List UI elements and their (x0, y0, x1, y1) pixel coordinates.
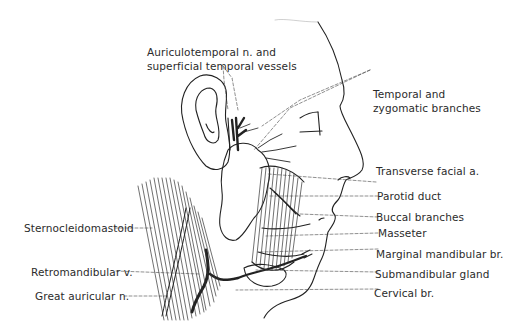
label-temporal-zygomatic-line1: Temporal and (373, 87, 481, 101)
parotid-gland (220, 143, 270, 240)
label-temporal-zygomatic: Temporal and zygomatic branches (373, 87, 481, 115)
label-auriculotemporal-line2: superficial temporal vessels (147, 59, 297, 73)
label-marginal-mandibular: Marginal mandibular br. (376, 248, 503, 261)
label-sternocleidomastoid: Sternocleidomastoid (24, 222, 134, 235)
head-contour (275, 19, 318, 22)
great-auricular-nerve (162, 208, 186, 316)
label-masseter: Masseter (378, 227, 427, 240)
label-auriculotemporal-line1: Auriculotemporal n. and (147, 45, 297, 59)
label-cervical-branch: Cervical br. (374, 287, 434, 300)
label-great-auricular-nerve: Great auricular n. (35, 290, 129, 303)
label-submandibular-gland: Submandibular gland (375, 268, 489, 281)
label-auriculotemporal: Auriculotemporal n. and superficial temp… (147, 45, 297, 73)
label-temporal-zygomatic-line2: zygomatic branches (373, 101, 481, 115)
label-buccal-branches: Buccal branches (376, 211, 464, 224)
label-parotid-duct: Parotid duct (377, 190, 441, 203)
anatomy-figure: Auriculotemporal n. and superficial temp… (0, 0, 507, 334)
submandibular-gland (244, 264, 286, 286)
sternocleidomastoid-muscle (138, 178, 220, 320)
label-transverse-facial: Transverse facial a. (376, 165, 479, 178)
label-retromandibular-vein: Retromandibular v. (31, 266, 133, 279)
masseter-muscle (252, 168, 302, 270)
